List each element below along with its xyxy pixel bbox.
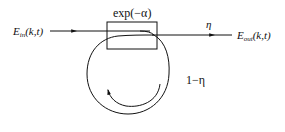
attenuator-label: exp(−α) bbox=[113, 6, 151, 20]
input-waveguide bbox=[50, 31, 154, 35]
ring-resonator-diagram: exp(−α) Ein(k,t) Eout(k,t) η 1−η bbox=[0, 0, 285, 132]
loop-label: 1−η bbox=[186, 73, 205, 87]
output-label: Eout(k,t) bbox=[236, 29, 271, 43]
coupling-label: η bbox=[206, 18, 211, 30]
input-label: Ein(k,t) bbox=[12, 25, 44, 39]
circulation-arrow-icon bbox=[108, 84, 160, 106]
